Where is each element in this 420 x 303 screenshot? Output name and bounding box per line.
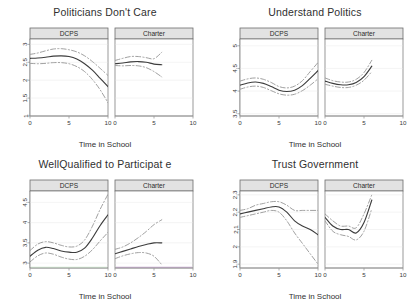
x-tick-label: 10 (400, 119, 407, 126)
facet-strip-label: Charter (353, 182, 376, 189)
plot-area: 3.544.55DCPS0510Charter0510 (210, 0, 420, 151)
chart-panel-politicians-dont-care: 11.522.53DCPS0510Charter0510 Politicians… (0, 0, 210, 151)
facet-strip-label: DCPS (60, 30, 79, 37)
y-tick-label: 4.5 (22, 197, 29, 206)
facet-charter: Charter0510 (113, 28, 197, 126)
x-tick-label: 0 (113, 119, 117, 126)
y-tick-label: 1.5 (22, 93, 29, 102)
x-tick-label: 5 (277, 119, 281, 126)
facet-strip-label: Charter (143, 30, 166, 37)
panel-title: WellQualified to Participat e (0, 158, 210, 170)
y-tick-label: 4.5 (232, 64, 239, 73)
y-tick-label: 4 (22, 220, 29, 224)
x-tick-label: 0 (238, 271, 242, 278)
x-axis-label: Time in School (210, 140, 420, 149)
x-tick-label: 5 (362, 271, 366, 278)
multi-panel-figure: 11.522.53DCPS0510Charter0510 Politicians… (0, 0, 420, 303)
y-tick-label: 3 (22, 261, 29, 265)
y-tick-label: 2.2 (232, 207, 239, 216)
x-tick-label: 5 (277, 271, 281, 278)
x-tick-label: 10 (190, 119, 197, 126)
facet-strip-label: Charter (143, 182, 166, 189)
facet-charter: Charter0510 (113, 180, 197, 278)
y-tick-label: 4 (232, 89, 239, 93)
chart-panel-trust-government: 1.922.12.22.3DCPS0510Charter0510 Trust G… (210, 152, 420, 303)
x-tick-label: 5 (152, 271, 156, 278)
facet-strip-label: DCPS (60, 182, 79, 189)
y-tick-label: 3.5 (22, 238, 29, 247)
y-tick-label: 2.1 (232, 225, 239, 234)
x-tick-label: 10 (105, 119, 112, 126)
x-tick-label: 5 (67, 271, 71, 278)
x-tick-label: 10 (190, 271, 197, 278)
plot-area: 33.544.5DCPS0510Charter0510 (0, 152, 210, 303)
facet-strip-label: DCPS (270, 30, 289, 37)
x-tick-label: 10 (105, 271, 112, 278)
y-tick-label: 2 (232, 245, 239, 249)
x-tick-label: 5 (67, 119, 71, 126)
plot-area: 11.522.53DCPS0510Charter0510 (0, 0, 210, 151)
y-tick-label: 1 (22, 114, 29, 118)
y-tick-label: 2.5 (22, 57, 29, 66)
x-axis-label: Time in School (0, 292, 210, 301)
chart-panel-understand-politics: 3.544.55DCPS0510Charter0510 Understand P… (210, 0, 420, 151)
panel-title: Trust Government (210, 158, 420, 170)
y-tick-label: 5 (232, 44, 239, 48)
plot-area: 1.922.12.22.3DCPS0510Charter0510 (210, 152, 420, 303)
panel-title: Politicians Don't Care (0, 6, 210, 18)
x-tick-label: 0 (28, 119, 32, 126)
chart-panel-wellqualified-to-participate: 33.544.5DCPS0510Charter0510 WellQualifie… (0, 152, 210, 303)
y-tick-label: 1.9 (232, 259, 239, 268)
x-tick-label: 10 (315, 271, 322, 278)
x-tick-label: 0 (28, 271, 32, 278)
x-tick-label: 10 (315, 119, 322, 126)
x-tick-label: 10 (400, 271, 407, 278)
facet-charter: Charter0510 (323, 28, 407, 126)
x-tick-label: 5 (152, 119, 156, 126)
x-tick-label: 5 (362, 119, 366, 126)
facet-dcps: DCPS0510 (238, 28, 322, 126)
facet-dcps: DCPS0510 (28, 28, 112, 126)
y-tick-label: 3 (22, 42, 29, 46)
facet-charter: Charter0510 (323, 180, 407, 278)
x-tick-label: 0 (113, 271, 117, 278)
panel-title: Understand Politics (210, 6, 420, 18)
x-tick-label: 0 (238, 119, 242, 126)
facet-dcps: DCPS0510 (28, 180, 112, 278)
x-axis-label: Time in School (210, 292, 420, 301)
facet-dcps: DCPS0510 (238, 180, 322, 278)
y-tick-label: 2.3 (232, 190, 239, 199)
x-axis-label: Time in School (0, 140, 210, 149)
y-tick-label: 2 (22, 78, 29, 82)
facet-strip-label: DCPS (270, 182, 289, 189)
facet-strip-label: Charter (353, 30, 376, 37)
y-tick-label: 3.5 (232, 109, 239, 118)
x-tick-label: 0 (323, 119, 327, 126)
x-tick-label: 0 (323, 271, 327, 278)
